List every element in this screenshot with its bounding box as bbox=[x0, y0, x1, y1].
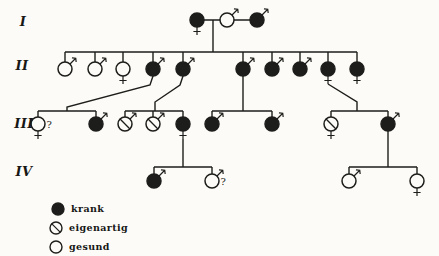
female-cross-icon bbox=[119, 76, 126, 84]
person-IV-2: ? bbox=[205, 167, 226, 188]
person-circle-healthy bbox=[116, 62, 130, 76]
person-IV-1 bbox=[147, 167, 165, 188]
person-IV-3 bbox=[342, 167, 360, 188]
generation-label-1: I bbox=[20, 14, 27, 29]
male-arrow-icon bbox=[188, 58, 194, 64]
person-II-1 bbox=[58, 52, 76, 76]
person-I-3 bbox=[250, 9, 268, 27]
person-II-7 bbox=[265, 52, 283, 76]
person-circle-affected bbox=[190, 13, 204, 27]
person-III-7 bbox=[265, 111, 283, 131]
descent-line-ii4 bbox=[67, 76, 153, 111]
female-cross-icon bbox=[324, 76, 331, 84]
female-cross-icon bbox=[193, 27, 200, 35]
descent-line-ii5 bbox=[155, 76, 183, 111]
generation-label-3: III bbox=[14, 116, 34, 131]
female-cross-icon bbox=[327, 131, 334, 139]
male-arrow-icon bbox=[248, 58, 254, 64]
person-III-8 bbox=[324, 111, 338, 139]
legend-label-peculiar: eigenartig bbox=[69, 222, 128, 233]
person-circle-affected bbox=[176, 117, 190, 131]
female-cross-icon bbox=[353, 76, 360, 84]
legend-symbol-affected bbox=[52, 203, 64, 215]
person-II-4 bbox=[146, 52, 164, 76]
male-arrow-icon bbox=[101, 113, 107, 119]
person-III-2 bbox=[89, 111, 107, 131]
male-arrow-icon bbox=[305, 58, 311, 64]
person-II-5 bbox=[176, 52, 194, 76]
person-III-5 bbox=[176, 111, 190, 139]
pedigree-figure: ?? IIIIIIIVkrankeigenartiggesund bbox=[0, 0, 439, 256]
legend-symbol-healthy bbox=[50, 241, 62, 253]
generation-label-2: II bbox=[15, 58, 28, 73]
male-arrow-icon bbox=[158, 113, 164, 119]
person-IV-4 bbox=[410, 167, 424, 196]
male-arrow-icon bbox=[277, 113, 283, 119]
male-arrow-icon bbox=[232, 9, 238, 15]
male-arrow-icon bbox=[217, 113, 223, 119]
person-I-1 bbox=[190, 13, 204, 35]
person-I-2 bbox=[220, 9, 238, 27]
male-arrow-icon bbox=[262, 9, 268, 15]
legend-label-affected: krank bbox=[71, 203, 104, 214]
person-II-9 bbox=[321, 52, 335, 84]
legend-label-healthy: gesund bbox=[69, 241, 110, 252]
person-circle-healthy bbox=[410, 174, 424, 188]
person-circle-affected bbox=[321, 62, 335, 76]
male-arrow-icon bbox=[100, 58, 106, 64]
uncertainty-mark: ? bbox=[221, 176, 226, 187]
male-arrow-icon bbox=[277, 58, 283, 64]
person-II-10 bbox=[350, 52, 364, 84]
person-II-2 bbox=[88, 52, 106, 76]
person-II-3 bbox=[116, 52, 130, 84]
female-cross-icon bbox=[34, 131, 41, 139]
person-III-9 bbox=[381, 111, 399, 131]
person-II-8 bbox=[293, 52, 311, 76]
male-arrow-icon bbox=[158, 58, 164, 64]
legend-symbol-peculiar bbox=[50, 222, 62, 234]
person-II-6 bbox=[236, 52, 254, 76]
generation-label-4: IV bbox=[15, 164, 32, 179]
male-arrow-icon bbox=[159, 170, 165, 176]
male-arrow-icon bbox=[354, 170, 360, 176]
pedigree-diagram: ?? bbox=[0, 0, 439, 256]
person-III-3 bbox=[118, 111, 136, 131]
person-III-6 bbox=[205, 111, 223, 131]
male-arrow-icon bbox=[393, 113, 399, 119]
female-cross-icon bbox=[413, 188, 420, 196]
person-III-1: ? bbox=[31, 111, 52, 139]
male-arrow-icon bbox=[70, 58, 76, 64]
female-cross-icon bbox=[179, 131, 186, 139]
person-III-4 bbox=[146, 111, 164, 131]
descent-line-ii9 bbox=[328, 84, 357, 111]
male-arrow-icon bbox=[130, 113, 136, 119]
uncertainty-mark: ? bbox=[47, 119, 52, 130]
person-circle-affected bbox=[350, 62, 364, 76]
